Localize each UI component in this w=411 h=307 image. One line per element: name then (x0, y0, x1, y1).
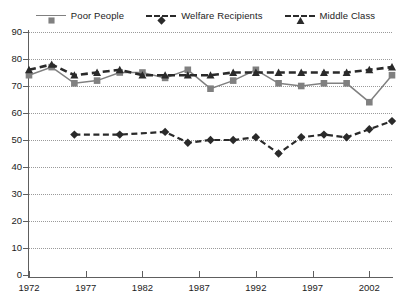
gridline-y (29, 32, 392, 33)
x-axis-tick-mark (313, 271, 314, 278)
y-axis-tick-label: 40 (0, 161, 22, 172)
y-axis-tick-label: 90 (0, 26, 22, 37)
y-axis-tick-label: 10 (0, 242, 22, 253)
legend-marker (47, 11, 56, 29)
y-axis-tick-label: 20 (0, 215, 22, 226)
x-axis-tick-label: 1992 (245, 282, 266, 293)
y-axis-tick-label: 60 (0, 107, 22, 118)
y-axis-tick-mark (23, 221, 29, 222)
x-axis-tick-label: 1997 (302, 282, 323, 293)
legend-label: Middle Class (320, 10, 376, 21)
x-axis (28, 277, 393, 278)
x-axis-tick-mark (142, 271, 143, 278)
y-axis-tick-label: 0 (0, 269, 22, 280)
legend-marker (157, 11, 166, 29)
gridline-y (29, 140, 392, 141)
gridline-y (29, 248, 392, 249)
x-axis-tick-label: 1982 (132, 282, 153, 293)
legend-label: Welfare Recipients (181, 10, 262, 21)
legend-marker (296, 11, 305, 29)
x-axis-tick-label: 1987 (189, 282, 210, 293)
legend-item-poor-people[interactable]: Poor People (36, 10, 124, 21)
x-axis-tick-mark (29, 271, 30, 278)
y-axis-tick-label: 70 (0, 80, 22, 91)
gridline-y (29, 59, 392, 60)
y-axis-tick-mark (23, 248, 29, 249)
y-axis-tick-mark (23, 113, 29, 114)
x-axis-tick-label: 1972 (18, 282, 39, 293)
y-axis-tick-mark (23, 86, 29, 87)
y-axis-tick-label: 50 (0, 134, 22, 145)
y-axis-tick-mark (23, 140, 29, 141)
y-axis (28, 30, 29, 278)
legend-item-middle-class[interactable]: Middle Class (285, 10, 376, 21)
gridline-y (29, 167, 392, 168)
y-axis-tick-label: 80 (0, 53, 22, 64)
x-axis-tick-mark (256, 271, 257, 278)
x-axis-tick-mark (199, 271, 200, 278)
gridline-y (29, 86, 392, 87)
y-axis-tick-label: 30 (0, 188, 22, 199)
diamond-marker-icon (146, 10, 176, 21)
legend-item-welfare-recipients[interactable]: Welfare Recipients (146, 10, 262, 21)
y-axis-tick-mark (23, 167, 29, 168)
gridline-y (29, 194, 392, 195)
triangle-marker-icon (285, 10, 315, 21)
x-axis-tick-label: 1977 (75, 282, 96, 293)
square-marker-icon (36, 10, 66, 21)
gridline-y (29, 221, 392, 222)
gridline-y (29, 113, 392, 114)
x-axis-tick-mark (86, 271, 87, 278)
y-axis-tick-mark (23, 32, 29, 33)
plot-area (29, 32, 392, 275)
x-axis-tick-label: 2002 (359, 282, 380, 293)
line-chart: Poor PeopleWelfare RecipientsMiddle Clas… (0, 0, 411, 307)
y-axis-tick-mark (23, 194, 29, 195)
x-axis-tick-mark (369, 271, 370, 278)
y-axis-tick-mark (23, 59, 29, 60)
legend-label: Poor People (71, 10, 124, 21)
chart-legend: Poor PeopleWelfare RecipientsMiddle Clas… (0, 6, 411, 24)
